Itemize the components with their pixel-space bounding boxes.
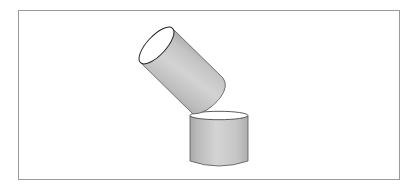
- cylinder-diagram: [0, 0, 417, 190]
- upright-cylinder-body: [190, 116, 248, 166]
- tilted-cylinder: [134, 22, 226, 114]
- upright-cylinder: [190, 111, 248, 166]
